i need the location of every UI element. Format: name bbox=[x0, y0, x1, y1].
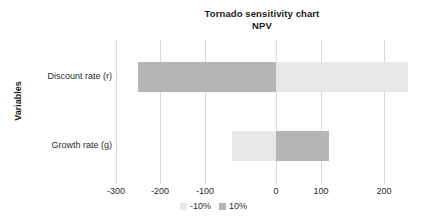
legend-swatch-high-icon bbox=[219, 203, 226, 210]
legend-item-high: 10% bbox=[219, 201, 247, 211]
x-tick-neg200: -200 bbox=[151, 186, 169, 196]
chart-title-line2: NPV bbox=[116, 20, 408, 32]
x-tick-100: 100 bbox=[313, 186, 328, 196]
legend-label-high: 10% bbox=[229, 201, 247, 211]
x-tick-neg300: -300 bbox=[107, 186, 125, 196]
bar-segment-discount-rate-low bbox=[276, 62, 408, 92]
legend-label-low: -10% bbox=[190, 201, 211, 211]
bar-segment-growth-rate-high bbox=[276, 131, 329, 161]
bar-segment-discount-rate-high bbox=[138, 62, 276, 92]
legend-swatch-low-icon bbox=[180, 203, 187, 210]
y-axis-category-labels: Discount rate (r) Growth rate (g) bbox=[0, 0, 112, 222]
bar-segment-growth-rate-low bbox=[232, 131, 276, 161]
chart-legend: -10% 10% bbox=[0, 201, 427, 211]
category-label-growth-rate: Growth rate (g) bbox=[4, 140, 112, 150]
x-tick-zero: 0 bbox=[273, 186, 278, 196]
bar-row-discount-rate bbox=[116, 62, 408, 92]
x-tick-200: 200 bbox=[376, 186, 391, 196]
legend-item-low: -10% bbox=[180, 201, 211, 211]
plot-area bbox=[116, 40, 408, 184]
category-label-discount-rate: Discount rate (r) bbox=[4, 71, 112, 81]
chart-title-line1: Tornado sensitivity chart bbox=[205, 8, 320, 19]
bar-row-growth-rate bbox=[116, 131, 408, 161]
chart-title: Tornado sensitivity chart NPV bbox=[116, 8, 408, 32]
x-axis-tick-labels: -300 -200 -100 0 100 200 bbox=[116, 186, 408, 200]
x-tick-neg100: -100 bbox=[196, 186, 214, 196]
